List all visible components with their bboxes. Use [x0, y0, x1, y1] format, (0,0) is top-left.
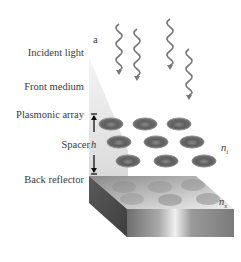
label-back-reflector: Back reflector: [24, 174, 84, 185]
wave-arrow-icon: [116, 24, 122, 70]
particle-row-1: [99, 118, 191, 130]
wave-arrow-icon: [134, 29, 140, 76]
plasmonic-array: [99, 118, 216, 167]
wave-arrow-icon: [186, 49, 192, 95]
refractive-index-substrate: ns: [219, 196, 227, 210]
panel-label: a: [93, 34, 98, 45]
label-plasmonic-array: Plasmonic array: [16, 109, 84, 120]
particle-row-3: [116, 155, 216, 167]
back-reflector-slab: [89, 176, 234, 237]
incident-light-waves: [116, 19, 192, 100]
particle-row-2: [107, 136, 204, 148]
figure-canvas: [0, 0, 241, 262]
spacer-thickness-symbol: h: [91, 139, 96, 150]
refractive-index-incident: ni: [221, 142, 228, 156]
label-incident-light: Incident light: [28, 47, 84, 58]
wave-arrow-icon: [167, 19, 173, 65]
label-spacer: Spacer: [61, 139, 90, 150]
label-front-medium: Front medium: [24, 81, 84, 92]
